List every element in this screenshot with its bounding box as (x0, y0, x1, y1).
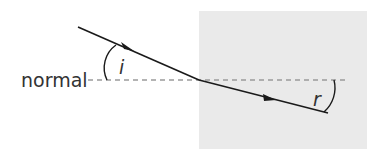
refraction-angle-label: r (313, 88, 321, 110)
incident-ray (78, 27, 199, 80)
incidence-angle-label: i (119, 56, 124, 78)
incident-arrow-icon (121, 42, 134, 51)
incidence-angle-arc (104, 45, 116, 80)
normal-label: normal (21, 69, 88, 91)
